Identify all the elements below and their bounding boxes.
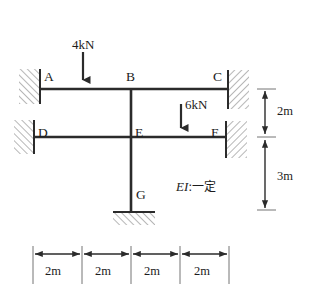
support-G-fixed xyxy=(113,212,155,225)
load-label-4kn: 4kN xyxy=(72,38,94,51)
vertical-dimension-group xyxy=(257,89,276,210)
node-label-C: C xyxy=(213,70,222,84)
structural-frame-figure: A B C D E F G 4kN 6kN 2m 3m 2m 2m 2m 2m … xyxy=(0,0,313,301)
stiffness-note-prefix: EI xyxy=(176,179,188,194)
dim-label-2m-span-1: 2m xyxy=(45,265,61,278)
node-label-B: B xyxy=(126,70,135,84)
dim-label-2m-vertical: 2m xyxy=(277,105,293,118)
stiffness-note-value: 一定 xyxy=(192,180,216,194)
node-label-D: D xyxy=(38,126,48,140)
node-label-G: G xyxy=(136,188,146,202)
node-label-A: A xyxy=(44,70,54,84)
support-F-fixed xyxy=(226,121,247,158)
dim-label-2m-span-2: 2m xyxy=(95,265,111,278)
dim-label-3m-vertical: 3m xyxy=(277,170,293,183)
stiffness-note: EI:一定 xyxy=(176,180,216,193)
dim-label-2m-span-4: 2m xyxy=(194,265,210,278)
support-A-fixed xyxy=(19,69,40,104)
support-D-fixed xyxy=(14,120,34,154)
node-label-E: E xyxy=(135,126,143,140)
dim-label-2m-span-3: 2m xyxy=(144,265,160,278)
node-label-F: F xyxy=(211,126,219,140)
load-label-6kn: 6kN xyxy=(185,98,207,111)
frame-drawing xyxy=(0,0,313,301)
support-C-fixed xyxy=(228,70,249,109)
